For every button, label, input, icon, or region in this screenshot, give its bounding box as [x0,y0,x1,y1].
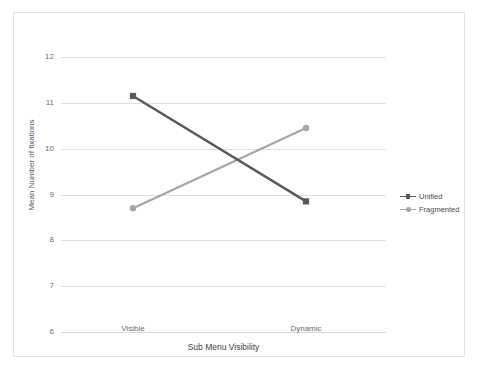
series-unified [130,93,309,205]
x-tick-label-dynamic: Dynamic [266,325,346,333]
chart-frame: 12 11 10 9 8 7 6 Mean Number of fixation… [13,12,465,357]
legend-marker-unified-icon [400,192,416,201]
legend-marker-fragmented-icon [400,205,416,214]
legend-label-unified: Unified [419,193,442,201]
legend-item-unified[interactable]: Unified [400,191,464,202]
plot-area: 12 11 10 9 8 7 6 Mean Number of fixation… [14,13,466,358]
chart-legend: Unified Fragmented [400,191,464,217]
x-axis-title: Sub Menu Visibility [61,343,386,352]
legend-label-fragmented: Fragmented [419,206,459,214]
x-tick-label-visible: Visible [93,325,173,333]
series-layer [14,13,466,358]
legend-item-fragmented[interactable]: Fragmented [400,204,464,215]
series-fragmented [130,125,309,212]
